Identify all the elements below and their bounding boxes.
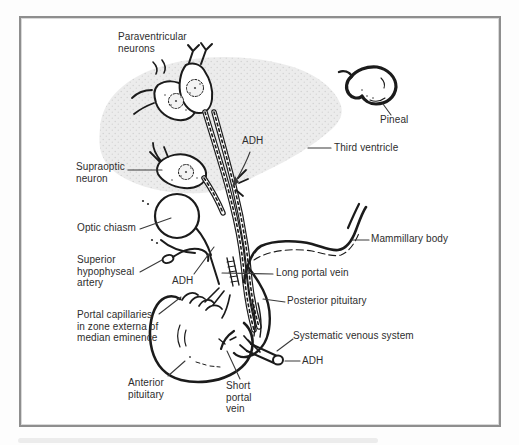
short-portal-vein-shape xyxy=(219,331,236,349)
label-systematic-venous-system: Systematic venous system xyxy=(293,330,414,342)
third-ventricle-region xyxy=(99,57,341,193)
label-short-portal-vein: Short portal vein xyxy=(226,380,252,415)
label-supraoptic-neuron: Supraoptic neuron xyxy=(76,161,125,184)
label-adh-middle: ADH xyxy=(172,275,193,287)
label-mammillary-body: Mammillary body xyxy=(371,233,448,245)
label-anterior-pituitary: Anterior pituitary xyxy=(128,377,164,400)
label-portal-capillaries: Portal capillaries in zone externa of me… xyxy=(77,309,158,344)
label-long-portal-vein: Long portal vein xyxy=(276,267,349,279)
label-adh-lower: ADH xyxy=(302,355,323,367)
pointer-long-portal-vein xyxy=(222,273,273,274)
pointer-anterior-pituitary xyxy=(168,361,185,376)
anterior-pituitary-shape xyxy=(150,288,253,382)
label-pineal: Pineal xyxy=(380,114,408,126)
label-adh-upper: ADH xyxy=(242,135,263,147)
superior-hypophyseal-artery-shape xyxy=(162,249,209,264)
label-optic-chiasm: Optic chiasm xyxy=(77,222,136,234)
pointer-superior-hypophyseal-artery xyxy=(140,260,162,272)
label-third-ventricle: Third ventricle xyxy=(334,142,398,154)
label-superior-hypophyseal-artery: Superior hypophyseal artery xyxy=(77,254,134,289)
label-paraventricular-neurons: Paraventricular neurons xyxy=(118,31,187,54)
pineal-shape xyxy=(339,67,396,104)
pituitary-stalk xyxy=(210,255,239,286)
label-posterior-pituitary: Posterior pituitary xyxy=(287,295,367,307)
pointer-systematic-venous-system xyxy=(277,339,293,351)
